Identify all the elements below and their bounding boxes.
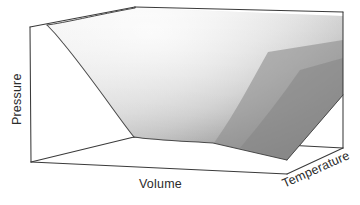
pressure-axis-label: Pressure <box>11 73 24 125</box>
volume-axis-line <box>31 162 287 174</box>
surface-plot-figure: Pressure Volume Temperature <box>0 0 360 205</box>
pressure-axis-line <box>30 27 31 162</box>
volume-axis-label: Volume <box>139 178 182 191</box>
floor-back-left-edge <box>31 137 134 162</box>
